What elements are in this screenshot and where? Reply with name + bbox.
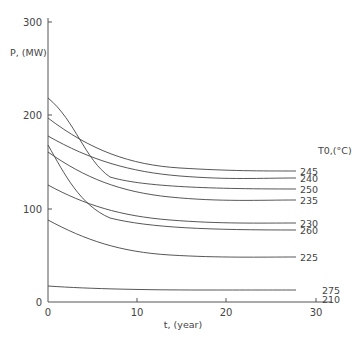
x-tick-label: 0 — [45, 307, 51, 318]
curve-label-235: 235 — [300, 195, 318, 206]
curve-label-240: 240 — [300, 173, 318, 184]
curve-225 — [48, 220, 296, 257]
curve-260 — [48, 145, 296, 230]
y-axis-title: P, (MW) — [10, 47, 47, 58]
y-tick-label: 300 — [23, 17, 42, 28]
x-tick-label: 10 — [131, 307, 144, 318]
curve-label-250: 250 — [300, 184, 318, 195]
legend-title: T0,(°C) — [317, 145, 352, 156]
curve-label-210: 210 — [322, 294, 340, 305]
chart: 300 200 100 0 0 10 20 30 t, (year) P, (M… — [0, 0, 363, 341]
curve-275 — [48, 286, 296, 290]
y-tick-label: 100 — [23, 204, 42, 215]
x-axis-title: t, (year) — [164, 319, 202, 330]
y-tick-label: 200 — [23, 110, 42, 121]
curve-label-225: 225 — [300, 252, 318, 263]
x-tick-label: 30 — [310, 307, 323, 318]
y-tick-label: 0 — [36, 297, 42, 308]
curve-230 — [48, 185, 296, 223]
curve-235 — [48, 152, 296, 200]
curve-245 — [48, 118, 296, 171]
curve-label-260: 260 — [300, 225, 318, 236]
x-tick-label: 20 — [220, 307, 233, 318]
